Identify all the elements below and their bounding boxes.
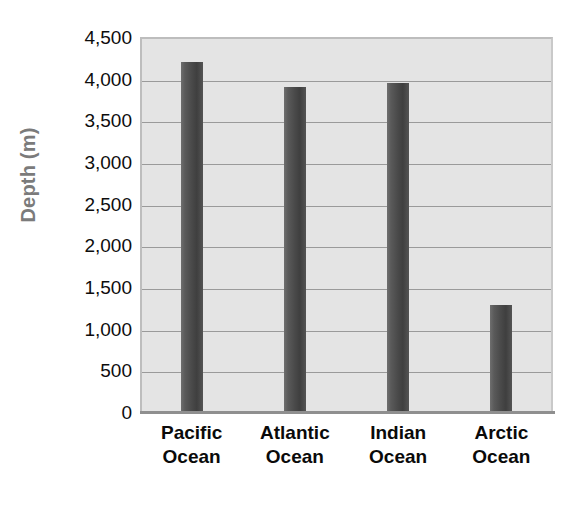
y-axis-tick-label: 1,500 [48,278,132,297]
y-axis-tick-label: 4,000 [48,69,132,88]
y-axis-title: Depth (m) [8,105,48,245]
bar [284,87,306,412]
x-axis-category-label-line2: Ocean [161,445,222,469]
x-axis-category-label-line2: Ocean [260,445,330,469]
bar [490,305,512,412]
x-axis-line [140,411,555,414]
y-axis-tick-label: 2,000 [48,236,132,255]
y-axis-tick-label: 1,000 [48,319,132,338]
x-axis-category-label: AtlanticOcean [260,421,330,470]
bar [387,83,409,412]
y-axis-tick-label: 3,000 [48,153,132,172]
x-axis-category-label-line1: Atlantic [260,422,330,443]
bars-layer [142,39,551,412]
bar [181,62,203,412]
y-axis-tick-labels: 05001,0001,5002,0002,5003,0003,5004,0004… [48,37,132,412]
y-axis-tick-label: 0 [48,403,132,422]
x-axis-category-label-line1: Indian [370,422,426,443]
x-axis-category-label: PacificOcean [161,421,222,470]
plot-area [140,37,553,412]
x-axis-category-label-line1: Pacific [161,422,222,443]
x-axis-category-label-line2: Ocean [369,445,427,469]
x-axis-category-label: ArcticOcean [472,421,530,470]
y-axis-tick-label: 500 [48,361,132,380]
y-axis-tick-label: 2,500 [48,194,132,213]
y-axis-tick-label: 4,500 [48,28,132,47]
x-axis-category-label-line1: Arctic [474,422,528,443]
x-axis-category-label-line2: Ocean [472,445,530,469]
x-axis-category-labels: PacificOceanAtlanticOceanIndianOceanArct… [140,421,553,491]
bar-chart: Depth (m) 05001,0001,5002,0002,5003,0003… [0,0,583,507]
y-axis-tick-label: 3,500 [48,111,132,130]
x-axis-category-label: IndianOcean [369,421,427,470]
